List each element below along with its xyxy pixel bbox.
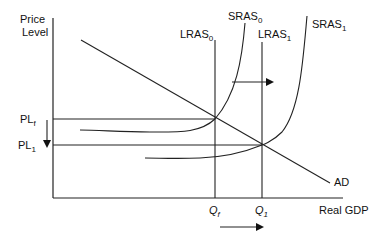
y-axis-label-line1: Price — [20, 13, 45, 25]
price-level-1-label: PL1 — [18, 139, 36, 154]
x-axis-label: Real GDP — [319, 204, 369, 216]
lras0-label: LRAS0 — [180, 28, 214, 43]
quantity-f-label: Qf — [209, 204, 221, 219]
sras1-label: SRAS1 — [312, 18, 347, 33]
sras0-curve — [80, 23, 245, 132]
as-ad-diagram: Price Level Real GDP LRAS0 SRAS0 LRAS1 S… — [0, 0, 386, 243]
lras1-label: LRAS1 — [258, 28, 292, 43]
ad-label: AD — [334, 176, 349, 188]
y-axis-label-line2: Level — [22, 26, 48, 38]
quantity-1-label: Q1 — [255, 204, 268, 219]
price-level-f-label: PLf — [20, 113, 36, 128]
sras0-label: SRAS0 — [228, 10, 263, 25]
